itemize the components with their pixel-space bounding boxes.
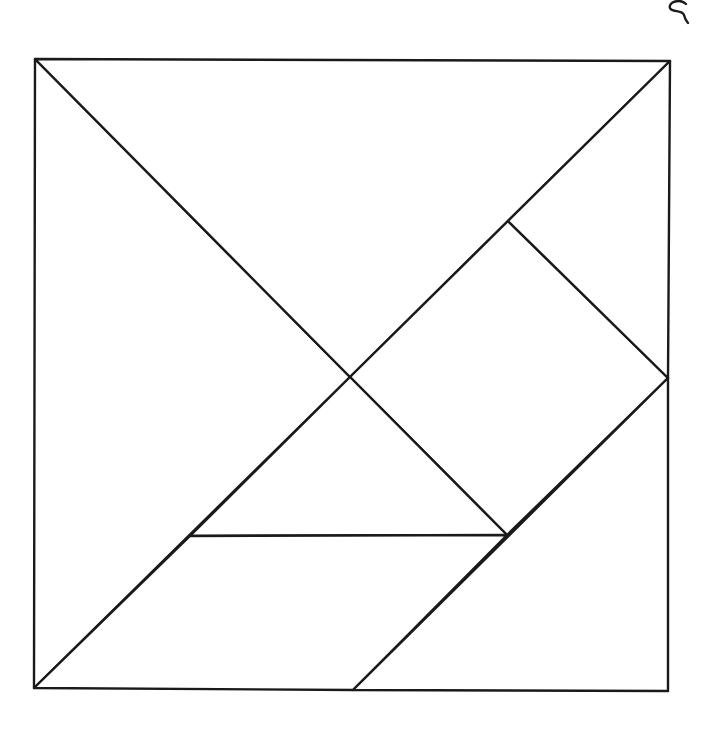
tangram-diagram	[0, 0, 707, 729]
squiggle-mark	[670, 1, 688, 23]
